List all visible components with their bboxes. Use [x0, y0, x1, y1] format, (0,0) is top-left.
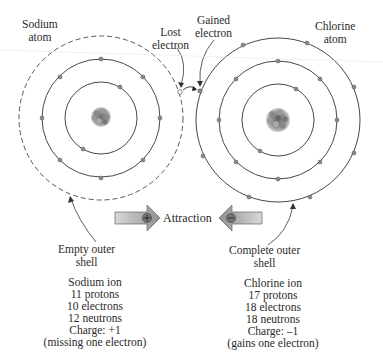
- gained-electron-icon: [198, 89, 202, 93]
- complete-outer-shell-label: Complete outer shell: [229, 244, 300, 269]
- positive-attraction-arrow: [115, 205, 160, 231]
- sodium-nucleus-icon: [91, 107, 111, 127]
- attraction-label: Attraction: [163, 211, 212, 226]
- lost-electron-pointer: [177, 48, 184, 86]
- empty-outer-shell-label: Empty outer shell: [58, 243, 115, 268]
- gained-electron-pointer: [200, 40, 214, 84]
- chlorine-nucleus-icon: [266, 108, 290, 132]
- sodium-atom: [19, 36, 183, 200]
- chlorine-atom-label: Chlorine atom: [315, 20, 355, 45]
- negative-attraction-arrow: [219, 205, 262, 231]
- chlorine-ion-info: Chlorine ion 17 protons 18 electrons 18 …: [218, 277, 328, 349]
- chlorine-atom: [196, 38, 360, 202]
- sodium-ion-info: Sodium ion 11 protons 10 electrons 12 ne…: [40, 276, 150, 348]
- lost-electron-icon: [178, 90, 182, 94]
- gained-electron-label: Gained electron: [195, 14, 232, 39]
- empty-shell-pointer: [71, 199, 96, 242]
- sodium-atom-label: Sodium atom: [22, 18, 58, 43]
- lost-electron-label: Lost electron: [152, 26, 189, 51]
- complete-shell-pointer: [268, 206, 293, 245]
